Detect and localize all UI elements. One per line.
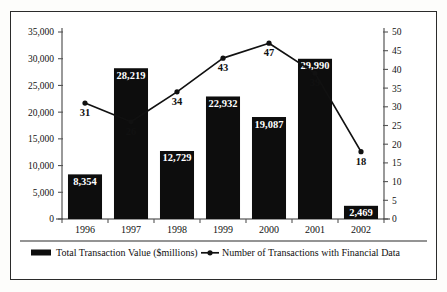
left-axis-tick-label: 5,000 [33, 188, 55, 198]
bar-value-label-2002: 2,469 [349, 207, 373, 218]
x-axis-label-2000: 2000 [259, 224, 279, 235]
x-axis-label-2002: 2002 [351, 224, 371, 235]
right-axis-tick-label: 5 [392, 196, 397, 206]
left-axis-tick-label: 25,000 [28, 81, 54, 91]
bar-value-label-1996: 8,354 [73, 176, 97, 187]
right-axis-tick-label: 45 [392, 46, 402, 56]
legend-swatch-icon [31, 250, 51, 256]
bar-value-label-1998: 12,729 [163, 152, 192, 163]
line-marker-2002 [358, 149, 363, 154]
right-axis-tick-label: 30 [392, 102, 402, 112]
legend-label-line-series: Number of Transactions with Financial Da… [222, 247, 401, 258]
left-axis-tick-label: 10,000 [28, 161, 54, 171]
line-marker-2000 [266, 41, 271, 46]
x-axis-label-1999: 1999 [213, 224, 233, 235]
bar-value-label-1999: 22,932 [209, 98, 238, 109]
line-marker-2001 [312, 71, 317, 76]
x-axis-label-1997: 1997 [121, 224, 141, 235]
line-value-label-2001: 39 [310, 77, 321, 88]
line-marker-1999 [220, 56, 225, 61]
x-axis-label-2001: 2001 [305, 224, 325, 235]
right-axis-tick-label: 35 [392, 84, 402, 94]
left-axis-tick-label: 35,000 [28, 27, 54, 37]
right-axis-tick-label: 50 [392, 27, 402, 37]
line-value-label-1999: 43 [218, 62, 229, 73]
bar-value-label-1997: 28,219 [117, 70, 146, 81]
right-axis-tick-label: 40 [392, 65, 402, 75]
bar-value-label-2000: 19,087 [255, 119, 284, 130]
legend-label-bar-series: Total Transaction Value ($millions) [56, 247, 198, 259]
bar-1997 [114, 68, 148, 219]
line-marker-1998 [174, 89, 179, 94]
right-axis-tick-label: 0 [392, 214, 397, 224]
line-value-label-1997: 26 [126, 126, 137, 137]
right-axis-tick-label: 25 [392, 121, 402, 131]
left-axis-tick-label: 20,000 [28, 108, 54, 118]
line-marker-1996 [82, 100, 87, 105]
bar-1999 [206, 96, 240, 219]
left-axis-tick-label: 15,000 [28, 134, 54, 144]
right-axis-tick-label: 10 [392, 177, 402, 187]
line-value-label-2002: 18 [356, 156, 367, 167]
line-value-label-2000: 47 [264, 47, 275, 58]
left-axis-tick-label: 0 [49, 214, 54, 224]
combo-chart: 05,00010,00015,00020,00025,00030,00035,0… [0, 0, 447, 292]
line-marker-1997 [128, 119, 133, 124]
legend-line-marker-icon [207, 250, 212, 255]
chart-figure: 05,00010,00015,00020,00025,00030,00035,0… [0, 0, 447, 292]
line-value-label-1996: 31 [80, 107, 91, 118]
x-axis-label-1998: 1998 [167, 224, 187, 235]
line-value-label-1998: 34 [172, 96, 183, 107]
right-axis-tick-label: 20 [392, 140, 402, 150]
left-axis-tick-label: 30,000 [28, 54, 54, 64]
x-axis-label-1996: 1996 [75, 224, 95, 235]
right-axis-tick-label: 15 [392, 158, 402, 168]
bar-2000 [252, 117, 286, 219]
chart-legend: Total Transaction Value ($millions)Numbe… [20, 241, 427, 259]
